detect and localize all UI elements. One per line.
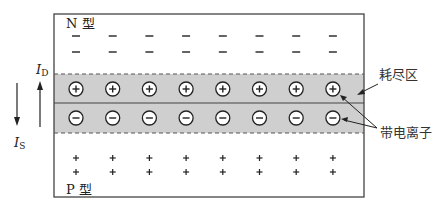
positive-ion bbox=[289, 82, 303, 96]
hole-plus-sign bbox=[73, 169, 79, 175]
diffusion-current-label: IS bbox=[13, 135, 25, 151]
n-region-label: N 型 bbox=[66, 16, 95, 31]
hole-plus-sign bbox=[110, 155, 116, 161]
hole-plus-sign bbox=[220, 155, 226, 161]
negative-ion bbox=[253, 111, 267, 125]
pn-junction-diagram: N 型 P 型 ID IS 耗尽区 带电离子 bbox=[0, 0, 446, 211]
hole-plus-sign bbox=[330, 155, 336, 161]
hole-plus-sign bbox=[110, 169, 116, 175]
n-region-carriers bbox=[72, 36, 337, 52]
depletion-region-label: 耗尽区 bbox=[379, 67, 418, 82]
drift-current-arrow bbox=[37, 81, 43, 127]
negative-ion bbox=[106, 111, 120, 125]
negative-ion bbox=[289, 111, 303, 125]
negative-ion bbox=[142, 111, 156, 125]
negative-ion bbox=[179, 111, 193, 125]
hole-plus-sign bbox=[220, 169, 226, 175]
positive-ion bbox=[326, 82, 340, 96]
positive-ion bbox=[106, 82, 120, 96]
negative-ion bbox=[326, 111, 340, 125]
hole-plus-sign bbox=[183, 169, 189, 175]
positive-ion bbox=[179, 82, 193, 96]
hole-plus-sign bbox=[146, 155, 152, 161]
hole-plus-sign bbox=[330, 169, 336, 175]
p-region-carriers bbox=[73, 155, 336, 175]
hole-plus-sign bbox=[293, 169, 299, 175]
drift-current-label: ID bbox=[35, 62, 48, 78]
negative-ion bbox=[216, 111, 230, 125]
negative-ion bbox=[69, 111, 83, 125]
hole-plus-sign bbox=[293, 155, 299, 161]
positive-ion bbox=[216, 82, 230, 96]
hole-plus-sign bbox=[146, 169, 152, 175]
positive-ion bbox=[253, 82, 267, 96]
p-region-label: P 型 bbox=[66, 182, 92, 197]
hole-plus-sign bbox=[73, 155, 79, 161]
charged-ions-label: 带电离子 bbox=[380, 125, 432, 140]
diffusion-current-arrow bbox=[14, 83, 20, 126]
hole-plus-sign bbox=[183, 155, 189, 161]
positive-ion bbox=[69, 82, 83, 96]
hole-plus-sign bbox=[257, 169, 263, 175]
hole-plus-sign bbox=[257, 155, 263, 161]
positive-ion bbox=[142, 82, 156, 96]
